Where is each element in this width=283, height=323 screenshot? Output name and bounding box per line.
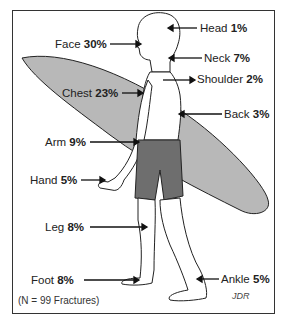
shorts-shape [135,140,183,200]
label-face: Face 30% [55,38,107,51]
label-leg: Leg 8% [45,221,84,234]
label-chest: Chest 23% [62,87,118,100]
label-hand: Hand 5% [30,174,77,187]
head-shape [136,13,180,72]
label-back: Back 3% [224,108,269,121]
label-neck: Neck 7% [204,52,250,65]
label-shoulder: Shoulder 2% [197,73,263,86]
leg-left-shape [122,198,156,285]
leg-right-shape [160,198,207,301]
label-head: Head 1% [200,22,247,35]
sample-size-note: (N = 99 Fractures) [18,295,99,306]
label-arm: Arm 9% [45,136,86,149]
label-foot: Foot 8% [31,274,74,287]
artist-signature: JDR [232,291,250,301]
label-ankle: Ankle 5% [221,273,270,286]
